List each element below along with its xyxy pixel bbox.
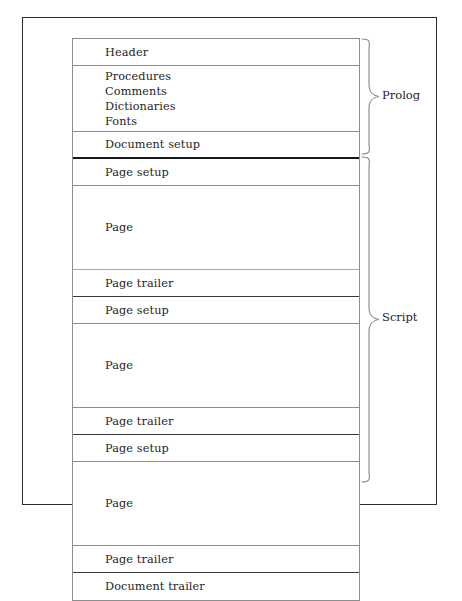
- prolog-label: Prolog: [382, 89, 420, 102]
- structure-row-page-setup-2: Page setup: [73, 297, 359, 324]
- structure-row-label: Page: [105, 220, 133, 235]
- structure-row-page-trailer-2: Page trailer: [73, 408, 359, 435]
- structure-row-label: Page trailer: [105, 552, 174, 567]
- structure-row-label: Page: [105, 496, 133, 511]
- structure-row-label: Page trailer: [105, 414, 174, 429]
- structure-row-page-trailer-3: Page trailer: [73, 546, 359, 573]
- structure-row-document-setup: Document setup: [73, 132, 359, 159]
- structure-row-page-1: Page: [73, 186, 359, 270]
- structure-row-label: Page trailer: [105, 276, 174, 291]
- structure-row-label: Page: [105, 358, 133, 373]
- structure-row-page-trailer-1: Page trailer: [73, 270, 359, 297]
- script-label: Script: [382, 311, 417, 324]
- structure-row-page-2: Page: [73, 324, 359, 408]
- structure-row-label: Page setup: [105, 165, 169, 180]
- resource-list-item: Fonts: [105, 114, 176, 129]
- document-structure-table: HeaderProceduresCommentsDictionariesFont…: [72, 38, 360, 601]
- resource-list: ProceduresCommentsDictionariesFonts: [105, 69, 176, 129]
- structure-row-resources: ProceduresCommentsDictionariesFonts: [73, 66, 359, 132]
- structure-row-page-setup-3: Page setup: [73, 435, 359, 462]
- structure-row-label: Document trailer: [105, 579, 205, 594]
- resource-list-item: Dictionaries: [105, 99, 176, 114]
- structure-row-label: Page setup: [105, 303, 169, 318]
- structure-row-page-setup-1: Page setup: [73, 159, 359, 186]
- resource-list-item: Procedures: [105, 69, 176, 84]
- structure-row-label: Header: [105, 45, 148, 60]
- structure-row-header: Header: [73, 39, 359, 66]
- structure-row-document-trailer: Document trailer: [73, 573, 359, 600]
- structure-row-label: Page setup: [105, 441, 169, 456]
- structure-row-page-3: Page: [73, 462, 359, 546]
- resource-list-item: Comments: [105, 84, 176, 99]
- structure-row-label: Document setup: [105, 137, 200, 152]
